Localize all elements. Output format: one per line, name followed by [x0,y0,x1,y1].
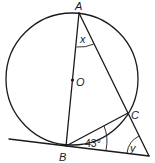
label-a: A [74,0,82,12]
line-at [79,13,149,156]
angle-arc-43 [104,126,107,150]
label-43: 43° [85,137,101,149]
label-y: y [129,142,137,154]
label-b: B [59,151,66,163]
circle-geometry-diagram: A x O C 43° y B [0,0,155,163]
label-c: C [131,109,139,121]
label-o: O [76,76,85,88]
center-point-o [71,78,74,81]
label-x: x [79,33,86,45]
